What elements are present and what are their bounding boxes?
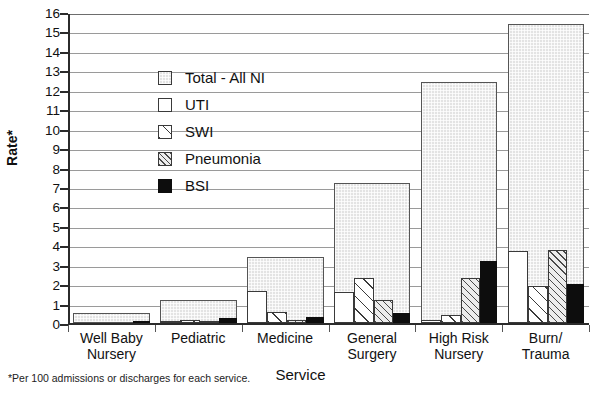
x-category-label: GeneralSurgery <box>329 330 416 362</box>
y-tick-label: 9 <box>34 143 60 157</box>
bar-uti <box>508 251 528 323</box>
y-tick-label: 13 <box>34 66 60 80</box>
y-tick-mark <box>60 285 68 287</box>
bar-pneu <box>200 321 219 323</box>
legend-item: UTI <box>158 91 265 118</box>
bar-swi <box>180 320 200 323</box>
bar-uti <box>160 321 180 323</box>
bar-bsi <box>306 317 323 323</box>
bar-pneu <box>374 300 393 323</box>
legend-item-label: BSI <box>185 177 209 194</box>
y-tick-label: 15 <box>34 27 60 41</box>
y-tick-mark <box>60 169 68 171</box>
y-tick-mark <box>60 227 68 229</box>
gridline <box>70 14 589 15</box>
x-category-label: High RiskNursery <box>415 330 502 362</box>
x-category-label: Pediatric <box>155 330 242 346</box>
y-tick-mark <box>60 246 68 248</box>
y-tick-label: 8 <box>34 163 60 177</box>
bar-bsi <box>133 321 150 323</box>
y-tick-mark <box>60 324 68 326</box>
bar-bsi <box>567 284 584 323</box>
bar-swi <box>441 315 461 323</box>
x-category-line: Trauma <box>502 346 589 362</box>
x-category-line: Nursery <box>68 346 155 362</box>
bar-bsi <box>393 313 410 323</box>
bar-bsi <box>219 318 236 323</box>
swatch-diagonal-dense-icon <box>158 152 172 166</box>
legend-item: BSI <box>158 172 265 199</box>
y-tick-label: 2 <box>34 279 60 293</box>
x-category-line: Pediatric <box>155 330 242 346</box>
y-tick-label: 6 <box>34 202 60 216</box>
x-category-line: Medicine <box>242 330 329 346</box>
y-tick-mark <box>60 207 68 209</box>
legend-item-label: Total - All NI <box>185 69 265 86</box>
footnote: *Per 100 admissions or discharges for ea… <box>8 372 250 384</box>
y-tick-mark <box>60 32 68 34</box>
y-tick-mark <box>60 305 68 307</box>
bar-swi <box>267 312 287 323</box>
swatch-solid-black-icon <box>158 179 172 193</box>
x-category-label: Medicine <box>242 330 329 346</box>
x-category-line: High Risk <box>415 330 502 346</box>
plot-area: Total - All NIUTISWIPneumoniaBSI <box>68 14 589 325</box>
y-tick-label: 3 <box>34 260 60 274</box>
x-tick-mark <box>589 325 590 332</box>
bar-bsi <box>480 261 497 323</box>
y-tick-label: 16 <box>34 7 60 21</box>
y-tick-label: 4 <box>34 241 60 255</box>
y-tick-label: 10 <box>34 124 60 138</box>
y-tick-mark <box>60 71 68 73</box>
swatch-dotted-grid-icon <box>158 71 172 85</box>
x-category-label: Well BabyNursery <box>68 330 155 362</box>
bar-pneu <box>548 250 567 323</box>
bar-uti <box>421 320 441 323</box>
y-tick-label: 14 <box>34 46 60 60</box>
legend-item: Total - All NI <box>158 64 265 91</box>
y-tick-label: 12 <box>34 85 60 99</box>
x-category-label: Burn/Trauma <box>502 330 589 362</box>
y-tick-mark <box>60 13 68 15</box>
bar-swi <box>528 286 548 323</box>
bar-uti <box>334 292 354 323</box>
bar-uti <box>247 291 267 323</box>
x-category-line: Nursery <box>415 346 502 362</box>
y-tick-mark <box>60 52 68 54</box>
y-tick-mark <box>60 149 68 151</box>
y-tick-mark <box>60 188 68 190</box>
y-tick-mark <box>60 110 68 112</box>
y-tick-mark <box>60 91 68 93</box>
bar-swi <box>354 278 374 323</box>
swatch-diagonal-sparse-icon <box>158 125 172 139</box>
x-category-line: Burn/ <box>502 330 589 346</box>
y-tick-mark <box>60 130 68 132</box>
bar-pneu <box>461 278 480 323</box>
x-category-line: Surgery <box>329 346 416 362</box>
swatch-white-icon <box>158 98 172 112</box>
y-tick-label: 5 <box>34 221 60 235</box>
y-tick-label: 7 <box>34 182 60 196</box>
y-tick-label: 11 <box>34 104 60 118</box>
y-tick-mark <box>60 266 68 268</box>
y-tick-label: 1 <box>34 299 60 313</box>
legend-item: Pneumonia <box>158 145 265 172</box>
x-category-line: General <box>329 330 416 346</box>
legend-item-label: UTI <box>185 96 209 113</box>
y-tick-label: 0 <box>34 318 60 332</box>
legend-item: SWI <box>158 118 265 145</box>
bar-pneu <box>287 320 306 323</box>
legend: Total - All NIUTISWIPneumoniaBSI <box>158 64 265 199</box>
legend-item-label: SWI <box>185 123 213 140</box>
legend-item-label: Pneumonia <box>185 150 261 167</box>
chart-root: Rate* 012345678910111213141516 Total - A… <box>0 0 601 395</box>
x-category-line: Well Baby <box>68 330 155 346</box>
